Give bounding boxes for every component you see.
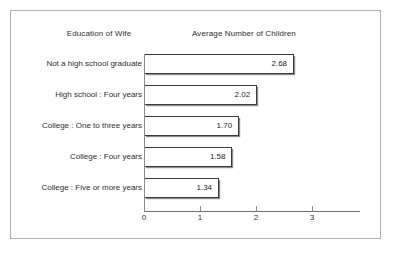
bar-value-label: 2.02 [235, 86, 251, 104]
bar-row: Not a high school graduate2.68 [0, 54, 395, 74]
bar-row: College : Five or more years1.34 [0, 178, 395, 198]
bar-row-label: College : Five or more years [42, 178, 142, 198]
chart-figure: Education of Wife Average Number of Chil… [0, 0, 395, 258]
bar-row: College : One to three years1.70 [0, 116, 395, 136]
bar-value-label: 1.70 [217, 117, 233, 135]
bar-row-label: College : One to three years [42, 116, 142, 136]
bar-row: College : Four years1.58 [0, 147, 395, 167]
bar: 1.58 [144, 147, 232, 167]
bar-row-label: College : Four years [70, 147, 142, 167]
category-column-header: Education of Wife [56, 29, 142, 38]
x-axis-line [144, 211, 360, 212]
x-axis-tick-label: 1 [190, 213, 210, 222]
bar-value-label: 1.34 [196, 179, 212, 197]
bar-value-label: 2.68 [272, 55, 288, 73]
bar-row: High school : Four years2.02 [0, 85, 395, 105]
x-axis-tick [144, 206, 145, 211]
x-axis-tick-label: 0 [134, 213, 154, 222]
bar: 1.34 [144, 178, 219, 198]
bar-row-label: High school : Four years [55, 85, 142, 105]
bar: 2.68 [144, 54, 294, 74]
x-axis-tick [200, 206, 201, 211]
y-axis-line [144, 54, 145, 211]
plot-area: Education of Wife Average Number of Chil… [0, 0, 395, 258]
bar-value-label: 1.58 [210, 148, 226, 166]
bar: 1.70 [144, 116, 239, 136]
x-axis-tick-label: 2 [246, 213, 266, 222]
x-axis-tick [312, 206, 313, 211]
bar-row-label: Not a high school graduate [46, 54, 142, 74]
x-axis-tick-label: 3 [302, 213, 322, 222]
x-axis-tick [256, 206, 257, 211]
value-column-header: Average Number of Children [178, 29, 310, 38]
bar: 2.02 [144, 85, 257, 105]
